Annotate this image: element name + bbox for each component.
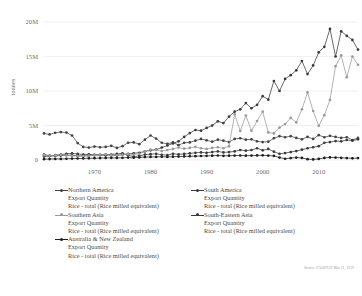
legend-item-element: Rice - total (Rice milled equivalent) (204, 227, 362, 235)
x-tick-label: 1970 (88, 168, 102, 175)
legend-item-south-eastern-asia[interactable]: South-Eastern Asia Export Quantity Rice … (181, 211, 362, 236)
y-tick-label: 20M (26, 18, 39, 25)
legend-item-name: Northern America (68, 186, 181, 194)
legend-item-name: South-Eastern Asia (204, 211, 362, 219)
x-tick-label: 2010 (312, 168, 326, 175)
y-tick-label: 0 (35, 156, 39, 163)
legend-item-element: Rice - total (Rice milled equivalent) (204, 202, 362, 210)
legend-item-item: Export Quantity (68, 194, 181, 202)
legend-marker-icon (55, 212, 68, 220)
legend-item-item: Export Quantity (68, 219, 181, 227)
legend-spacer (181, 235, 362, 260)
legend-item-southern-asia[interactable]: Southern Asia Export Quantity Rice - tot… (0, 211, 181, 236)
legend-marker-icon (55, 236, 68, 244)
legend-item-item: Export Quantity (68, 243, 181, 251)
legend-item-name: South America (204, 186, 362, 194)
legend-item-text: Northern America Export Quantity Rice - … (68, 186, 181, 211)
x-tick-label: 2000 (256, 168, 270, 175)
legend-item-australia-new-zealand[interactable]: Australia & New Zealand Export Quantity … (0, 235, 181, 260)
x-tick-label: 1990 (200, 168, 214, 175)
series-south-eastern-asia (43, 54, 360, 157)
legend-item-name: Australia & New Zealand (68, 235, 181, 243)
series-northern-america (43, 131, 360, 150)
legend-item-text: South-Eastern Asia Export Quantity Rice … (204, 211, 362, 236)
chart-legend: Northern America Export Quantity Rice - … (0, 186, 362, 260)
legend-item-northern-america[interactable]: Northern America Export Quantity Rice - … (0, 186, 181, 211)
legend-item-item: Export Quantity (204, 219, 362, 227)
legend-item-name: Southern Asia (68, 211, 181, 219)
legend-item-item: Export Quantity (204, 194, 362, 202)
chart-svg: 05M10M15M20M19701980199020002010 (0, 0, 362, 185)
y-tick-label: 10M (26, 87, 39, 94)
legend-item-south-america[interactable]: South America Export Quantity Rice - tot… (181, 186, 362, 211)
legend-row: Northern America Export Quantity Rice - … (0, 186, 362, 211)
legend-row: Southern Asia Export Quantity Rice - tot… (0, 211, 362, 236)
legend-marker-icon (55, 187, 68, 195)
legend-item-element: Rice - total (Rice milled equivalent) (68, 252, 181, 260)
plot-area: tonnes 05M10M15M20M19701980199020002010 (0, 0, 362, 185)
chart-container: tonnes 05M10M15M20M19701980199020002010 … (0, 0, 362, 296)
source-note: Source: FAOSTAT Mar 11, 2019 (304, 266, 354, 270)
legend-item-element: Rice - total (Rice milled equivalent) (68, 202, 181, 210)
legend-item-element: Rice - total (Rice milled equivalent) (68, 227, 181, 235)
y-tick-label: 15M (26, 53, 39, 60)
legend-marker-icon (191, 212, 204, 220)
legend-item-text: Southern Asia Export Quantity Rice - tot… (68, 211, 181, 236)
legend-item-text: Australia & New Zealand Export Quantity … (68, 235, 181, 260)
y-tick-label: 5M (29, 122, 38, 129)
legend-marker-icon (191, 187, 204, 195)
legend-item-text: South America Export Quantity Rice - tot… (204, 186, 362, 211)
x-tick-label: 1980 (144, 168, 158, 175)
legend-row: Australia & New Zealand Export Quantity … (0, 235, 362, 260)
